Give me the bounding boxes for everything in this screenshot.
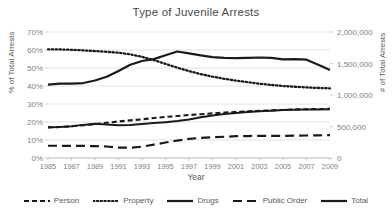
legend-item-property[interactable]: Property — [93, 196, 153, 205]
series-lines — [48, 49, 330, 147]
svg-text:1989: 1989 — [87, 162, 103, 171]
svg-text:1991: 1991 — [110, 162, 126, 171]
svg-text:30%: 30% — [27, 100, 43, 109]
svg-text:1985: 1985 — [40, 162, 56, 171]
legend-item-total[interactable]: Total — [321, 196, 368, 205]
svg-text:1997: 1997 — [181, 162, 197, 171]
legend-swatch-icon — [321, 197, 347, 205]
svg-text:2007: 2007 — [298, 162, 314, 171]
svg-text:10%: 10% — [27, 136, 43, 145]
legend-label: Person — [54, 196, 79, 205]
legend-label: Total — [351, 196, 368, 205]
legend-swatch-icon — [167, 197, 193, 205]
svg-text:2005: 2005 — [275, 162, 291, 171]
svg-text:40%: 40% — [27, 82, 43, 91]
y-axis-ticks-right: 0500,0001,000,0001,500,0002,000,000 — [330, 28, 373, 163]
svg-text:1987: 1987 — [63, 162, 79, 171]
svg-text:1995: 1995 — [157, 162, 173, 171]
chart-legend: PersonPropertyDrugsPublic OrderTotal — [0, 196, 392, 205]
svg-text:2001: 2001 — [228, 162, 244, 171]
svg-text:2009: 2009 — [322, 162, 338, 171]
svg-text:500,000: 500,000 — [337, 123, 366, 132]
svg-text:70%: 70% — [27, 28, 43, 37]
svg-text:1999: 1999 — [204, 162, 220, 171]
plot-area: 0%10%20%30%40%50%60%70% 0500,0001,000,00… — [0, 0, 392, 216]
svg-text:1,000,000: 1,000,000 — [337, 91, 373, 100]
chart-container: Type of Juvenile Arrests % of Total Arre… — [0, 0, 392, 216]
svg-text:50%: 50% — [27, 64, 43, 73]
legend-swatch-icon — [93, 197, 119, 205]
legend-item-public-order[interactable]: Public Order — [233, 196, 307, 205]
svg-text:2,000,000: 2,000,000 — [337, 28, 373, 37]
series-line-public-order — [48, 135, 330, 148]
svg-text:1,500,000: 1,500,000 — [337, 60, 373, 69]
series-line-drugs — [48, 109, 330, 127]
legend-swatch-icon — [233, 197, 259, 205]
legend-label: Property — [123, 196, 153, 205]
legend-swatch-icon — [24, 197, 50, 205]
svg-text:60%: 60% — [27, 46, 43, 55]
legend-item-person[interactable]: Person — [24, 196, 79, 205]
y-axis-ticks-left: 0%10%20%30%40%50%60%70% — [27, 28, 48, 163]
svg-text:20%: 20% — [27, 118, 43, 127]
legend-item-drugs[interactable]: Drugs — [167, 196, 218, 205]
svg-text:2003: 2003 — [251, 162, 267, 171]
svg-text:1993: 1993 — [134, 162, 150, 171]
x-axis-ticks: 1985198719891991199319951997199920012003… — [40, 158, 338, 171]
legend-label: Public Order — [263, 196, 307, 205]
legend-label: Drugs — [197, 196, 218, 205]
